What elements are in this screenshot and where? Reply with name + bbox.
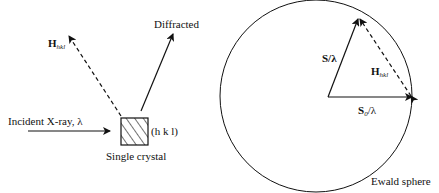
diffracted-beam-label: Diffracted [154,18,199,30]
crystal-label: Single crystal [106,150,166,162]
reciprocal-vector-label-right: Hhkl [371,65,388,79]
reciprocal-vector-dashed-arrow [360,19,411,96]
single-crystal-icon [121,118,148,145]
reciprocal-vector-arrow [69,36,121,116]
ewald-sphere-label: Ewald sphere [371,175,431,187]
diffracted-beam-arrow [141,34,173,111]
reciprocal-vector-label: Hhkl [48,37,65,51]
incident-beam-label: Incident X-ray, λ [8,115,83,127]
diagram-canvas: Incident X-ray, λ (h k l) Single crystal… [0,0,439,193]
incident-vector-label: S0/λ [358,104,377,118]
ewald-sphere-circle [220,0,412,192]
diffraction-geometry-panel: Incident X-ray, λ (h k l) Single crystal… [8,18,199,162]
crystal-plane-label: (h k l) [151,125,178,138]
scattered-vector-label: S/λ [322,52,337,64]
ewald-sphere-panel: S0/λ S/λ Hhkl Ewald sphere [220,0,431,192]
